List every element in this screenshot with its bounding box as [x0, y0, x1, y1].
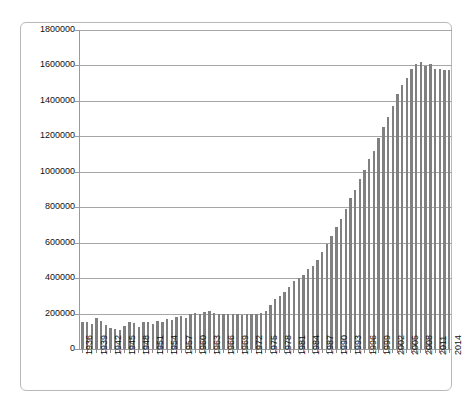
tick-mark	[420, 349, 421, 353]
bar	[208, 311, 210, 349]
tick-mark	[124, 349, 125, 353]
tick-mark	[336, 349, 337, 353]
x-axis-tick-label: 1966	[227, 335, 236, 355]
bar	[345, 209, 347, 349]
bar	[349, 198, 351, 349]
tick-mark	[392, 349, 393, 353]
tick-mark	[308, 349, 309, 353]
bar	[307, 269, 309, 349]
bar	[439, 69, 441, 349]
chart-screenshot: 1800000160000014000001200000100000080000…	[0, 0, 473, 406]
x-axis-tick-label: 1984	[312, 335, 321, 355]
tick-mark	[251, 349, 252, 353]
bar	[382, 127, 384, 349]
tick-mark	[237, 349, 238, 353]
bar	[448, 70, 450, 349]
tick-mark	[82, 349, 83, 353]
x-axis-tick-label: 1939	[100, 335, 109, 355]
bar	[95, 318, 97, 349]
bar-cell	[447, 30, 452, 349]
tick-mark	[364, 349, 365, 353]
bar	[194, 313, 196, 349]
tick-mark	[209, 349, 210, 353]
x-axis-tick-label: 1975	[270, 335, 279, 355]
tick-mark	[96, 349, 97, 353]
y-axis-tick-label: 200000	[0, 309, 75, 318]
bar	[363, 170, 365, 349]
tick-mark	[265, 349, 266, 353]
y-axis-tick-label: 1600000	[0, 60, 75, 69]
x-axis-tick-label: 1990	[340, 335, 349, 355]
bar	[424, 66, 426, 349]
tick-mark	[406, 349, 407, 353]
bar	[321, 252, 323, 349]
bar	[330, 236, 332, 349]
bar	[401, 85, 403, 349]
y-axis-tick-label: 1800000	[0, 25, 75, 34]
bar	[123, 326, 125, 349]
x-axis-tick-label: 1999	[383, 335, 392, 355]
x-axis-tick-label: 1951	[156, 335, 165, 355]
bar	[420, 62, 422, 349]
x-axis-tick-label: 1969	[241, 335, 250, 355]
bar	[138, 327, 140, 349]
bar	[354, 190, 356, 350]
bar	[368, 159, 370, 349]
bar	[236, 314, 238, 349]
bar	[392, 106, 394, 349]
bar	[340, 219, 342, 349]
x-axis-label-group: 1936193919421945194819511954195719601963…	[80, 355, 452, 395]
bar	[359, 179, 361, 349]
x-axis-tick-label: 1996	[369, 335, 378, 355]
bar	[152, 324, 154, 349]
y-axis-tick-label: 0	[0, 344, 75, 353]
bar	[222, 314, 224, 349]
x-axis-tick-label: 1936	[85, 335, 94, 355]
bar	[410, 69, 412, 349]
bar	[293, 281, 295, 349]
tick-mark	[449, 349, 450, 353]
bar-series	[80, 30, 452, 349]
bar	[250, 314, 252, 349]
x-axis-tick-label: 1957	[185, 335, 194, 355]
y-axis-tick-label: 1000000	[0, 167, 75, 176]
tick-mark	[293, 349, 294, 353]
tick-mark	[279, 349, 280, 353]
bar	[443, 70, 445, 349]
tick-mark	[435, 349, 436, 353]
y-axis-tick-label: 1200000	[0, 131, 75, 140]
y-axis-tick-label: 800000	[0, 202, 75, 211]
y-axis-tick-label: 600000	[0, 238, 75, 247]
bar	[377, 138, 379, 349]
x-axis-tick-label: 1945	[128, 335, 137, 355]
x-axis-tick-label: 2014	[454, 335, 463, 355]
x-axis-tick-label: 1972	[255, 335, 264, 355]
x-axis-tick-label: 2008	[425, 335, 434, 355]
tick-mark	[378, 349, 379, 353]
x-axis-tick-label: 1948	[142, 335, 151, 355]
bar	[180, 316, 182, 349]
tick-mark	[223, 349, 224, 353]
bar	[109, 328, 111, 349]
tick-mark	[322, 349, 323, 353]
x-axis-tick-label: 1942	[114, 335, 123, 355]
bar	[415, 64, 417, 349]
bar	[387, 117, 389, 349]
x-axis-tick-label: 1960	[199, 335, 208, 355]
tick-mark	[152, 349, 153, 353]
x-axis-tick-label: 2002	[397, 335, 406, 355]
bar	[335, 227, 337, 349]
y-axis-tick-label: 400000	[0, 273, 75, 282]
y-axis-label-group: 1800000160000014000001200000100000080000…	[0, 0, 75, 406]
bar	[373, 151, 375, 349]
bar	[434, 69, 436, 349]
bar	[166, 319, 168, 349]
x-axis-tick-label: 1963	[213, 335, 222, 355]
x-axis-tick-label: 1954	[170, 335, 179, 355]
x-axis-tick-label: 1987	[326, 335, 335, 355]
bar	[396, 94, 398, 349]
tick-mark	[181, 349, 182, 353]
y-axis-tick-label: 1400000	[0, 96, 75, 105]
tick-mark	[167, 349, 168, 353]
bar	[265, 311, 267, 349]
